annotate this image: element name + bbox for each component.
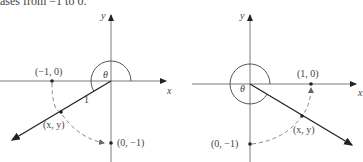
left-x-axis-label: x [166,85,172,96]
left-diagram: y x θ 1 (−1, 0) (x, y) (0, −1) [0,10,172,162]
left-point-end [109,141,113,145]
right-point-mid-label: (x, y) [293,124,315,136]
right-point-start-label: (1, 0) [297,68,319,80]
left-point-mid-label: (x, y) [43,119,65,131]
unit-circle-diagrams: y x θ 1 (−1, 0) (x, y) (0, −1) y x θ (1,… [0,0,363,162]
right-point-end-label: (0, −1) [211,138,238,150]
left-point-end-label: (0, −1) [117,137,144,149]
right-point-start [309,82,313,86]
right-point-end [248,142,252,146]
right-diagram: y x θ (1, 0) (0, −1) (x, y) [192,10,363,162]
left-y-axis-label: y [100,10,106,21]
left-angle-label: θ [103,69,108,80]
left-point-mid [59,110,63,114]
right-x-axis-label: x [357,87,363,98]
left-point-start-label: (−1, 0) [35,66,62,78]
right-angle-label: θ [240,83,245,94]
right-terminal-ray [250,84,352,145]
right-point-mid [300,114,304,118]
right-y-axis-label: y [239,10,245,21]
left-radius-label: 1 [84,94,89,105]
left-point-start [50,79,54,83]
